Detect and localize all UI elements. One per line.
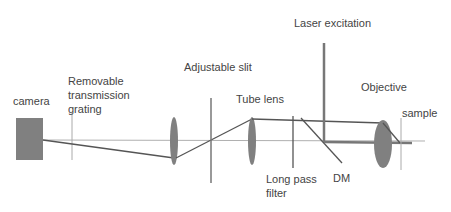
label-grating-1: Removable [68,74,124,88]
label-dm: DM [333,171,350,185]
label-filter-2: filter [266,186,287,200]
label-camera: camera [13,94,50,108]
beam-camera-lens [43,140,174,158]
label-objective: Objective [361,80,407,94]
label-grating-2: transmission [68,88,130,102]
label-filter-1: Long pass [266,172,317,186]
label-laser: Laser excitation [294,16,371,30]
beam-lens-tube [176,119,252,158]
objective-lens [374,120,392,168]
label-tube-lens: Tube lens [236,92,284,106]
label-grating-3: grating [68,102,102,116]
tube-lens [248,117,256,165]
label-slit: Adjustable slit [184,60,252,74]
label-sample: sample [402,106,437,120]
optical-axis [43,140,425,141]
camera-box [16,118,43,160]
beam-tube-objective [252,119,383,123]
